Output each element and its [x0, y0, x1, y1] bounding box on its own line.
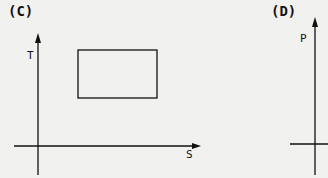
panel-d-y-arrow — [312, 17, 318, 27]
diagram-canvas — [0, 0, 328, 178]
panel-c-axes — [14, 40, 194, 175]
panel-d-axes — [290, 24, 328, 175]
panel-c-y-arrow — [35, 33, 41, 43]
panel-c-cycle-rectangle — [78, 50, 157, 98]
panel-c-x-arrow — [192, 143, 201, 149]
